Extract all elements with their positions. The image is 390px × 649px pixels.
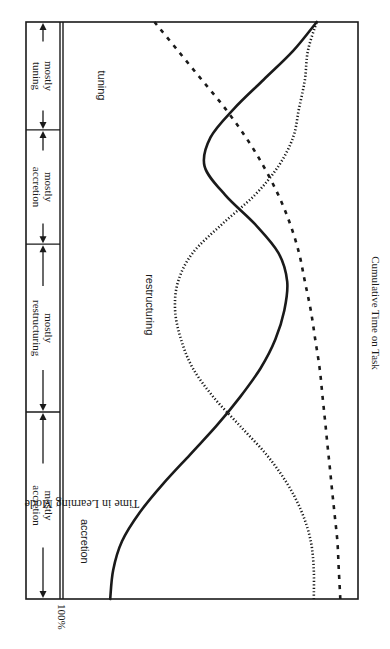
arrowhead-icon [40, 131, 47, 138]
svg-text:mostly: mostly [43, 172, 55, 202]
restructuring-curve [175, 22, 317, 599]
arrowhead-icon [40, 122, 47, 129]
arrowhead-icon [40, 23, 47, 30]
tuning-label: tuning [96, 71, 108, 101]
arrowhead-icon [40, 413, 47, 420]
accretion-label: accretion [79, 519, 91, 564]
accretion-curve [110, 22, 317, 599]
arrowhead-icon [40, 236, 47, 243]
x-axis-label: Cumulative Time on Task [370, 256, 382, 370]
arrowhead-icon [40, 591, 47, 598]
svg-text:restructuring: restructuring [31, 300, 43, 357]
phase-label: mostlytuning [31, 61, 55, 91]
svg-text:tuning: tuning [31, 62, 43, 91]
arrowhead-icon [40, 404, 47, 411]
y-tick-100: 100% [56, 604, 68, 630]
restructuring-label: restructuring [144, 274, 156, 335]
tuning-curve [155, 22, 341, 599]
learning-modes-chart: mostlyaccretionmostlyrestructuringmostly… [0, 0, 390, 649]
chart-frame [26, 22, 358, 599]
svg-text:mostly: mostly [43, 61, 55, 91]
svg-text:mostly: mostly [43, 313, 55, 343]
phase-label: mostlyrestructuring [31, 300, 55, 357]
arrowhead-icon [40, 245, 47, 252]
phase-label: mostlyaccretion [31, 167, 55, 208]
y-axis-label: Time in Learning Mode [25, 497, 140, 511]
svg-text:accretion: accretion [31, 167, 43, 208]
curve-labels: accretionrestructuringtuning [79, 71, 156, 564]
